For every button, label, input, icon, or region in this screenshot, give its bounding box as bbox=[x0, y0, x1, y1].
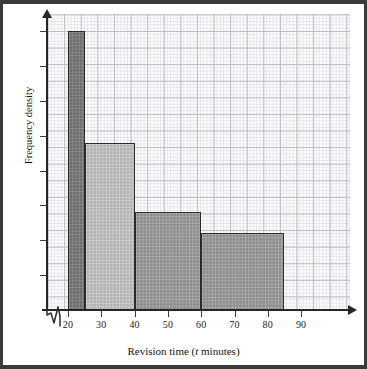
y-axis-tick bbox=[40, 171, 47, 172]
y-axis-tick bbox=[40, 136, 47, 137]
x-axis-title: Revision time (t minutes) bbox=[0, 345, 367, 357]
x-axis-tick bbox=[101, 310, 102, 317]
y-axis-line bbox=[46, 16, 48, 310]
x-axis-tick bbox=[235, 310, 236, 317]
page-edge-left bbox=[0, 0, 3, 369]
x-axis-tick-label: 70 bbox=[222, 319, 248, 330]
x-axis-tick bbox=[68, 310, 69, 317]
arrow-right-icon bbox=[348, 305, 357, 315]
y-axis-tick bbox=[40, 31, 47, 32]
chart-page: 2030405060708090 Frequency density Revis… bbox=[0, 0, 367, 369]
x-axis-tick-label: 80 bbox=[255, 319, 281, 330]
x-axis-title-prefix: Revision time ( bbox=[127, 345, 195, 357]
histogram-bar bbox=[135, 212, 202, 310]
x-axis-tick-label: 40 bbox=[122, 319, 148, 330]
y-axis-tick bbox=[40, 275, 47, 276]
page-edge-bottom bbox=[0, 365, 367, 369]
y-axis-tick bbox=[40, 101, 47, 102]
histogram-bar bbox=[85, 143, 135, 310]
y-axis-title: Frequency density bbox=[23, 26, 34, 226]
x-axis-tick bbox=[201, 310, 202, 317]
x-axis-line bbox=[42, 309, 349, 311]
y-axis-tick bbox=[40, 205, 47, 206]
arrow-up-icon bbox=[42, 9, 52, 18]
x-axis-title-suffix: minutes) bbox=[198, 345, 239, 357]
y-axis-tick bbox=[40, 240, 47, 241]
x-axis-tick-label: 50 bbox=[155, 319, 181, 330]
zigzag-break-icon bbox=[45, 302, 67, 328]
x-axis-tick bbox=[268, 310, 269, 317]
x-axis-tick-label: 60 bbox=[188, 319, 214, 330]
y-axis-tick bbox=[40, 66, 47, 67]
histogram-bar bbox=[68, 31, 85, 310]
x-axis-tick-label: 90 bbox=[288, 319, 314, 330]
histogram-bar bbox=[201, 233, 284, 310]
x-axis-tick bbox=[301, 310, 302, 317]
x-axis-tick bbox=[135, 310, 136, 317]
x-axis-tick-label: 30 bbox=[88, 319, 114, 330]
page-edge-top bbox=[0, 0, 367, 4]
x-axis-tick bbox=[168, 310, 169, 317]
